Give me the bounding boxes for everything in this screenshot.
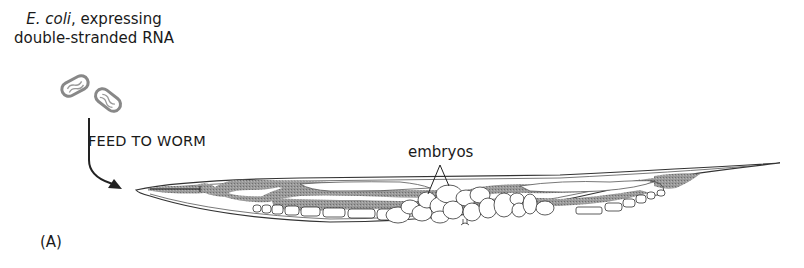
feed-arrow-icon bbox=[89, 118, 122, 189]
diagram-art bbox=[0, 0, 804, 268]
worm-body bbox=[136, 163, 780, 225]
bacterium-icon bbox=[93, 86, 124, 114]
bacterium-icon bbox=[59, 73, 90, 99]
